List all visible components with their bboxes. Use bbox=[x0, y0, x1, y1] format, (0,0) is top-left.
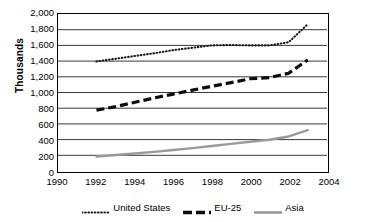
legend-item[interactable]: Asia bbox=[254, 202, 303, 213]
plot-svg bbox=[58, 14, 327, 171]
legend-item[interactable]: United States bbox=[82, 202, 170, 213]
y-tick-label: 1,400 bbox=[16, 56, 54, 66]
x-tick-label: 1994 bbox=[113, 176, 157, 188]
x-tick-label: 2002 bbox=[268, 176, 312, 188]
chart-legend: United StatesEU-25Asia bbox=[0, 196, 386, 218]
y-tick-label: 1,000 bbox=[16, 88, 54, 98]
x-axis-tick-labels: 19901992199419961998200020022004 bbox=[57, 176, 329, 190]
x-tick-label: 1996 bbox=[152, 176, 196, 188]
solid-line-swatch bbox=[254, 203, 282, 212]
series-line-asia bbox=[96, 130, 307, 156]
x-tick-label: 2000 bbox=[229, 176, 273, 188]
line-chart: Thousands 2,0001,8001,6001,4001,2001,000… bbox=[0, 0, 386, 222]
series-line-eu-25 bbox=[96, 60, 307, 110]
dotted-line-swatch bbox=[82, 203, 110, 212]
y-tick-label: 800 bbox=[16, 104, 54, 114]
x-tick-label: 1992 bbox=[74, 176, 118, 188]
y-tick-label: 200 bbox=[16, 152, 54, 162]
y-tick-label: 1,600 bbox=[16, 40, 54, 50]
y-axis-tick-labels: 2,0001,8001,6001,4001,2001,0008006004002… bbox=[16, 13, 54, 173]
x-tick-label: 1990 bbox=[35, 176, 79, 188]
y-tick-label: 1,800 bbox=[16, 24, 54, 34]
legend-item[interactable]: EU-25 bbox=[183, 202, 241, 213]
y-tick-label: 1,200 bbox=[16, 72, 54, 82]
y-tick-label: 400 bbox=[16, 136, 54, 146]
dashed-line-swatch bbox=[183, 203, 211, 212]
series-lines bbox=[96, 24, 307, 156]
legend-label: EU-25 bbox=[214, 202, 241, 213]
x-tick-label: 1998 bbox=[190, 176, 234, 188]
legend-label: United States bbox=[113, 202, 170, 213]
y-tick-label: 2,000 bbox=[16, 8, 54, 18]
plot-area bbox=[57, 13, 329, 173]
x-tick-label: 2004 bbox=[307, 176, 351, 188]
legend-label: Asia bbox=[285, 202, 303, 213]
y-tick-label: 600 bbox=[16, 120, 54, 130]
